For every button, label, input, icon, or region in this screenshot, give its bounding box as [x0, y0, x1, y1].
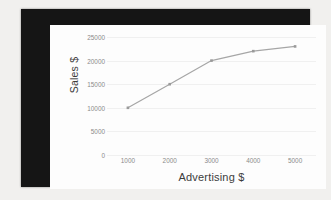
x-tick-label: 3000 [192, 157, 232, 164]
data-point-marker [168, 83, 171, 86]
y-tick-label: 15000 [65, 81, 105, 88]
y-tick-label: 20000 [65, 57, 105, 64]
y-tick-label: 5000 [65, 128, 105, 135]
data-point-marker [294, 45, 297, 48]
data-point-marker [127, 107, 130, 110]
x-axis-tick-labels: 10002000300040005000 [107, 157, 316, 169]
gridline [107, 155, 316, 156]
x-tick-label: 1000 [108, 157, 148, 164]
x-tick-label: 2000 [150, 157, 190, 164]
plot-area [107, 37, 316, 155]
y-tick-label: 25000 [65, 34, 105, 41]
data-point-marker [252, 50, 255, 53]
image-canvas: Sales $ 2500020000150001000050000 100020… [0, 0, 331, 200]
data-point-marker [210, 59, 213, 62]
y-axis-tick-labels: 2500020000150001000050000 [63, 25, 105, 189]
series-line [128, 46, 295, 107]
x-tick-label: 5000 [275, 157, 315, 164]
x-axis-title: Advertising $ [107, 171, 316, 183]
y-tick-label: 0 [65, 152, 105, 159]
x-tick-label: 4000 [233, 157, 273, 164]
plot-wrapper: Sales $ 2500020000150001000050000 100020… [50, 25, 326, 189]
y-tick-label: 10000 [65, 104, 105, 111]
series-sales-line [107, 37, 316, 155]
photo-border: Sales $ 2500020000150001000050000 100020… [21, 9, 310, 187]
chart-container: Sales $ 2500020000150001000050000 100020… [50, 25, 326, 189]
